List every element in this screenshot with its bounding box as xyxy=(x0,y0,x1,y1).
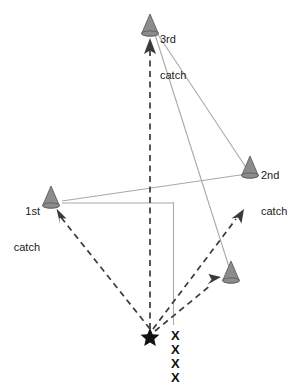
label-1st-catch-line1: 1st xyxy=(0,205,40,217)
search-pattern-diagram: 3rd catch 2nd catch 1st catch X X X X xyxy=(0,0,297,385)
label-1st-catch: 1st catch xyxy=(0,181,40,277)
arrowhead-to-fourth-cone xyxy=(208,274,222,285)
x-mark-3: X xyxy=(171,357,180,370)
label-2nd-catch: 2nd catch xyxy=(261,145,287,241)
label-1st-catch-line2: catch xyxy=(0,241,40,253)
label-2nd-catch-line1: 2nd xyxy=(261,169,287,181)
x-mark-2: X xyxy=(171,343,180,356)
dash-star-to-1st xyxy=(60,216,150,329)
diagram-canvas xyxy=(0,0,297,385)
x-mark-1: X xyxy=(171,329,180,342)
cone-fourth-icon xyxy=(223,261,240,283)
dashed-line-group xyxy=(57,38,245,331)
dash-star-to-fourth xyxy=(155,285,211,331)
label-3rd-catch: 3rd catch xyxy=(160,9,186,105)
x-mark-4: X xyxy=(171,371,180,384)
cone-2nd-catch-icon xyxy=(242,156,259,178)
arrowhead-upper-right xyxy=(232,209,245,224)
cone-1st-catch-icon xyxy=(43,186,60,208)
dash-star-to-upper-right xyxy=(153,219,236,329)
line-2nd-to-1st xyxy=(62,174,247,201)
label-3rd-catch-line1: 3rd xyxy=(160,33,186,45)
solid-line-group xyxy=(62,24,249,325)
cone-3rd-catch-icon xyxy=(142,14,159,36)
label-2nd-catch-line2: catch xyxy=(261,205,287,217)
label-3rd-catch-line2: catch xyxy=(160,69,186,81)
